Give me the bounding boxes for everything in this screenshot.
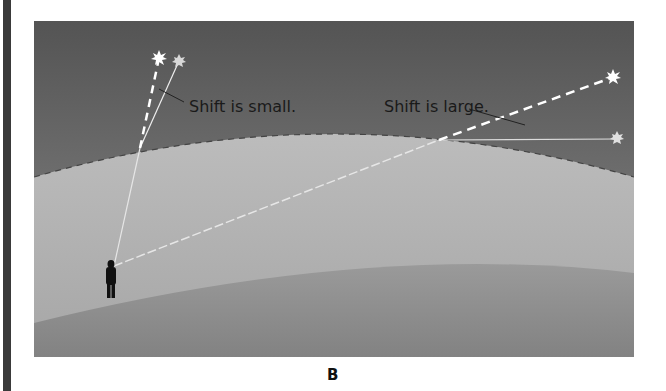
label-shift-small: Shift is small. [189, 97, 296, 116]
panel-label: B [327, 366, 338, 384]
page-margin-bar [3, 0, 11, 391]
refraction-diagram: Shift is small. Shift is large. [34, 21, 634, 357]
label-shift-large: Shift is large. [384, 97, 489, 116]
